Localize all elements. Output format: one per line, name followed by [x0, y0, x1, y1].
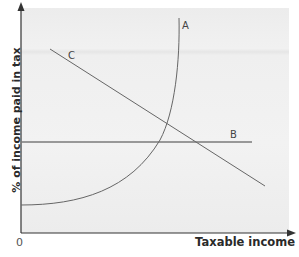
tax-rate-chart: % of income paid in tax Taxable income 0… [0, 0, 299, 257]
series-c-line [50, 49, 265, 186]
y-axis-label: % of income paid in tax [10, 30, 26, 210]
origin-label: 0 [16, 236, 23, 249]
x-axis-label: Taxable income [195, 235, 295, 249]
series-b-label: B [230, 129, 237, 140]
series-a-label: A [182, 20, 189, 31]
series-a-curve [21, 18, 179, 205]
chart-canvas [0, 0, 299, 257]
series-c-label: C [68, 50, 75, 61]
y-axis-arrow-icon [18, 2, 25, 11]
